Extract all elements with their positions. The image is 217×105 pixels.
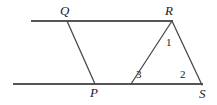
parallel-lines <box>13 21 203 84</box>
segment-q-to-p <box>67 21 95 84</box>
vertex-label-p: P <box>90 86 98 99</box>
angle-label-1: 1 <box>166 37 172 48</box>
vertex-label-q: Q <box>60 4 69 17</box>
vertex-label-s: S <box>199 87 206 100</box>
geometry-figure: Q R P S 1 3 2 <box>0 0 217 105</box>
angle-label-3: 3 <box>136 69 142 80</box>
vertex-label-r: R <box>165 4 173 17</box>
angle-label-2: 2 <box>180 69 186 80</box>
geometry-canvas <box>0 0 217 105</box>
segment-r-to-s <box>172 21 202 85</box>
